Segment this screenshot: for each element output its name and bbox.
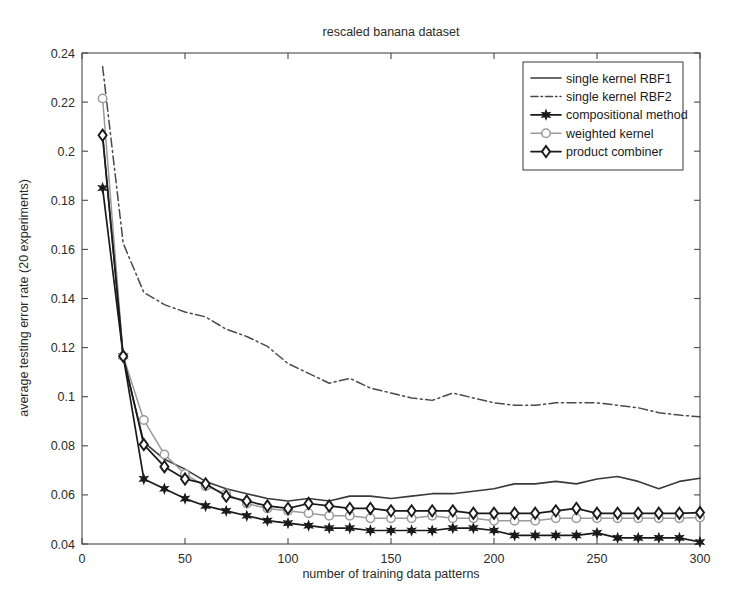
chart-series bbox=[99, 130, 704, 519]
y-tick-label: 0.22 bbox=[51, 96, 75, 110]
x-tick-label: 150 bbox=[381, 552, 402, 566]
y-tick-label: 0.04 bbox=[51, 538, 75, 552]
chart-title: rescaled banana dataset bbox=[323, 25, 460, 39]
y-tick-label: 0.08 bbox=[51, 439, 75, 453]
chart-canvas: rescaled banana dataset 0501001502002503… bbox=[0, 0, 747, 600]
series-line bbox=[103, 188, 700, 542]
legend-label: single kernel RBF2 bbox=[566, 90, 672, 104]
legend-label: compositional method bbox=[566, 108, 688, 122]
chart-title-group: rescaled banana dataset bbox=[323, 25, 460, 39]
x-tick-label: 200 bbox=[484, 552, 505, 566]
data-point-marker bbox=[366, 503, 374, 514]
data-point-marker bbox=[572, 503, 580, 514]
y-tick-label: 0.14 bbox=[51, 292, 75, 306]
x-axis-title: number of training data patterns bbox=[302, 567, 479, 581]
chart-figure: rescaled banana dataset 0501001502002503… bbox=[0, 0, 747, 600]
chart-series bbox=[99, 183, 704, 546]
data-point-marker bbox=[325, 500, 333, 511]
data-point-marker bbox=[98, 94, 106, 102]
x-tick-label: 50 bbox=[178, 552, 192, 566]
legend-label: weighted kernel bbox=[565, 127, 654, 141]
data-point-marker bbox=[99, 183, 107, 192]
data-point-marker bbox=[160, 484, 168, 493]
y-tick-label: 0.12 bbox=[51, 341, 75, 355]
data-point-marker bbox=[140, 474, 148, 483]
x-tick-label: 300 bbox=[690, 552, 711, 566]
y-tick-label: 0.06 bbox=[51, 488, 75, 502]
legend-group: single kernel RBF1single kernel RBF2comp… bbox=[523, 62, 688, 170]
series-line bbox=[103, 136, 700, 501]
data-point-marker bbox=[160, 450, 168, 458]
y-tick-label: 0.16 bbox=[51, 243, 75, 257]
data-point-marker bbox=[140, 416, 148, 424]
series-line bbox=[103, 135, 700, 513]
legend-label: single kernel RBF1 bbox=[566, 72, 672, 86]
chart-series bbox=[103, 136, 700, 501]
y-tick-label: 0.24 bbox=[51, 47, 75, 61]
legend-label: product combiner bbox=[566, 145, 663, 159]
x-tick-label: 250 bbox=[587, 552, 608, 566]
data-point-marker bbox=[542, 129, 550, 137]
y-axis-title: average testing error rate (20 experimen… bbox=[17, 179, 31, 417]
y-tick-label: 0.18 bbox=[51, 194, 75, 208]
y-tick-label: 0.2 bbox=[58, 145, 75, 159]
y-tick-label: 0.1 bbox=[58, 390, 75, 404]
x-tick-label: 0 bbox=[79, 552, 86, 566]
x-tick-label: 100 bbox=[278, 552, 299, 566]
data-point-marker bbox=[181, 494, 189, 503]
